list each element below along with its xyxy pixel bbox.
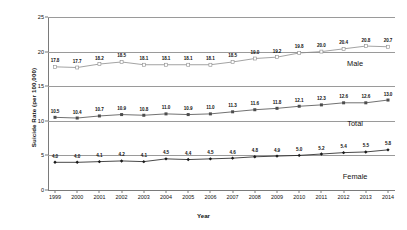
data-point-male-2003 — [142, 63, 145, 66]
value-label-total-2009: 11.8 — [273, 100, 282, 105]
data-point-total-2001 — [98, 114, 101, 117]
x-tick-mark-2004 — [166, 190, 167, 193]
data-point-total-2005 — [187, 113, 190, 116]
value-label-male-2000: 17.7 — [73, 59, 82, 64]
x-tick-mark-2011 — [321, 190, 322, 193]
data-point-male-2011 — [320, 50, 323, 53]
data-point-male-2005 — [187, 63, 190, 66]
data-point-male-2013 — [364, 45, 367, 48]
value-label-total-2003: 10.8 — [139, 107, 148, 112]
value-label-female-2011: 5.2 — [318, 146, 324, 151]
x-tick-mark-2013 — [365, 190, 366, 193]
series-line-female — [55, 150, 388, 162]
value-label-total-2010: 12.1 — [295, 98, 304, 103]
value-label-female-2006: 4.5 — [207, 150, 213, 155]
value-label-total-2013: 12.6 — [361, 94, 370, 99]
x-tick-label-2012: 2012 — [338, 194, 350, 200]
x-tick-label-2006: 2006 — [204, 194, 216, 200]
x-tick-mark-2001 — [99, 190, 100, 193]
data-point-female-2009 — [275, 154, 278, 157]
x-tick-mark-2007 — [232, 190, 233, 193]
data-point-male-2014 — [387, 45, 390, 48]
x-tick-label-2010: 2010 — [293, 194, 305, 200]
data-point-female-2007 — [231, 156, 234, 159]
series-line-male — [55, 46, 388, 67]
value-label-total-2005: 10.9 — [184, 106, 193, 111]
data-point-female-2001 — [98, 160, 101, 163]
x-tick-mark-2008 — [254, 190, 255, 193]
x-tick-mark-2009 — [277, 190, 278, 193]
value-label-male-2006: 18.1 — [206, 56, 215, 61]
data-point-total-2011 — [320, 103, 323, 106]
value-label-female-2014: 5.8 — [385, 141, 391, 146]
data-point-total-2006 — [209, 112, 212, 115]
data-point-female-2005 — [187, 158, 190, 161]
data-point-female-2013 — [364, 150, 367, 153]
x-tick-mark-2010 — [299, 190, 300, 193]
value-label-male-2001: 18.2 — [95, 56, 104, 61]
series-female — [53, 148, 389, 164]
value-label-female-2009: 4.9 — [274, 148, 280, 153]
data-point-female-2011 — [320, 152, 323, 155]
data-point-male-2000 — [76, 66, 79, 69]
data-point-female-1999 — [53, 161, 56, 164]
data-point-male-2006 — [209, 63, 212, 66]
value-label-male-2010: 19.8 — [295, 44, 304, 49]
data-point-total-2007 — [231, 110, 234, 113]
x-tick-label-2004: 2004 — [160, 194, 172, 200]
value-label-female-2005: 4.4 — [185, 151, 191, 156]
x-tick-mark-2006 — [210, 190, 211, 193]
value-label-female-2008: 4.8 — [252, 148, 258, 153]
data-point-male-2004 — [165, 63, 168, 66]
suicide-rate-line-chart: Suicide Rate (per 100,000) 0510152025 17… — [0, 0, 407, 230]
value-label-female-2003: 4.1 — [141, 153, 147, 158]
data-point-female-2003 — [142, 160, 145, 163]
x-tick-label-2000: 2000 — [71, 194, 83, 200]
data-point-male-2009 — [276, 56, 279, 59]
value-label-female-2002: 4.2 — [118, 152, 124, 157]
x-tick-mark-2000 — [77, 190, 78, 193]
x-tick-label-2001: 2001 — [93, 194, 105, 200]
data-point-male-2007 — [231, 60, 234, 63]
value-label-female-2010: 5.0 — [296, 147, 302, 152]
value-label-total-1999: 10.5 — [51, 109, 60, 114]
series-label-female: Female — [343, 172, 368, 181]
value-label-male-2013: 20.8 — [361, 38, 370, 43]
value-label-male-2005: 18.1 — [184, 56, 193, 61]
value-label-total-2012: 12.6 — [339, 94, 348, 99]
value-label-total-2008: 11.6 — [251, 101, 260, 106]
value-label-male-2007: 18.5 — [228, 53, 237, 58]
x-tick-label-2013: 2013 — [360, 194, 372, 200]
x-tick-label-2011: 2011 — [316, 194, 328, 200]
x-tick-mark-2005 — [188, 190, 189, 193]
data-point-male-2001 — [98, 63, 101, 66]
value-label-male-2012: 20.4 — [339, 40, 348, 45]
value-label-female-1999: 4.0 — [52, 154, 58, 159]
x-tick-mark-2002 — [121, 190, 122, 193]
x-tick-mark-2012 — [343, 190, 344, 193]
x-tick-label-2005: 2005 — [182, 194, 194, 200]
y-tick-label-0: 0 — [41, 187, 44, 193]
value-label-female-2012: 5.4 — [340, 144, 346, 149]
data-point-female-2008 — [253, 155, 256, 158]
data-point-female-2014 — [386, 148, 389, 151]
value-label-male-2008: 19.0 — [250, 50, 259, 55]
value-label-male-1999: 17.8 — [51, 58, 60, 63]
value-label-male-2009: 19.2 — [273, 49, 282, 54]
data-point-total-2014 — [387, 99, 390, 102]
value-label-total-2014: 13.0 — [384, 92, 393, 97]
x-tick-label-2008: 2008 — [249, 194, 261, 200]
value-label-female-2007: 4.6 — [229, 150, 235, 155]
value-label-female-2013: 5.5 — [363, 143, 369, 148]
x-tick-label-2002: 2002 — [116, 194, 128, 200]
x-tick-mark-2014 — [388, 190, 389, 193]
data-point-total-2010 — [298, 105, 301, 108]
value-label-male-2011: 20.0 — [317, 43, 326, 48]
x-tick-mark-2003 — [143, 190, 144, 193]
plot-area: 0510152025 17.817.718.218.518.118.118.11… — [48, 17, 395, 190]
data-point-male-2012 — [342, 47, 345, 50]
data-point-total-2004 — [165, 112, 168, 115]
y-tick-label-5: 5 — [41, 152, 44, 158]
data-point-female-2000 — [76, 161, 79, 164]
value-label-male-2003: 18.1 — [139, 56, 148, 61]
